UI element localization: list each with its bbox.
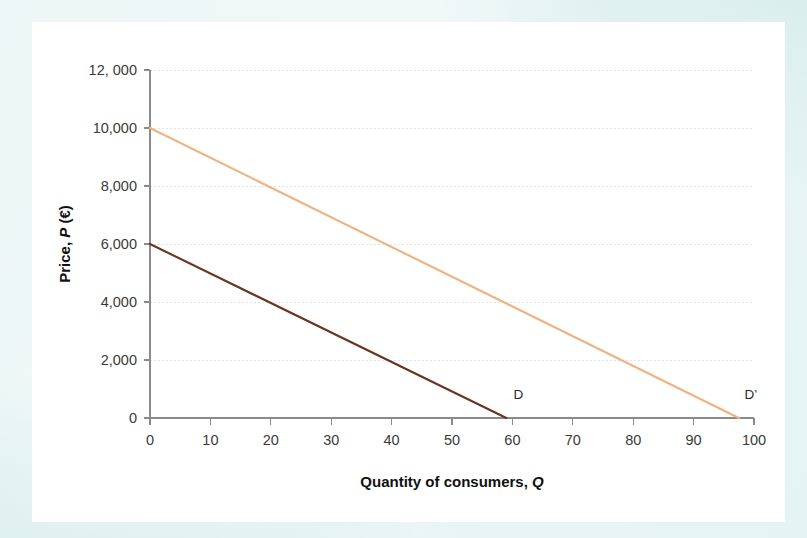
x-tick-label: 70 [565,432,581,448]
x-tick-label: 60 [504,432,520,448]
gridlines [150,70,754,360]
page-root: 02,0004,0006,0008,00010,00012, 000 01020… [0,0,807,538]
y-axis-title: Price, P (€) [56,205,73,283]
x-tick-label: 40 [384,432,400,448]
y-tick-label: 2,000 [101,352,137,368]
chart-card: 02,0004,0006,0008,00010,00012, 000 01020… [32,22,785,522]
x-tick-label: 80 [625,432,641,448]
x-axis-title: Quantity of consumers, Q [360,473,544,490]
y-tick-label: 6,000 [101,236,137,252]
data-series [150,128,739,418]
y-tick-label: 0 [129,410,137,426]
x-tick-label: 50 [444,432,460,448]
x-tick-label: 20 [263,432,279,448]
x-tick-label: 10 [202,432,218,448]
y-tick-label: 4,000 [101,294,137,310]
curve-annotations: DD’ [514,387,758,402]
series-line-D [150,128,739,418]
x-tick-label: 90 [686,432,702,448]
chart-svg: 02,0004,0006,0008,00010,00012, 000 01020… [32,22,785,522]
demand-curve-chart: 02,0004,0006,0008,00010,00012, 000 01020… [32,22,785,522]
x-tick-label: 100 [742,432,766,448]
y-tick-label: 10,000 [93,120,137,136]
series-line-D [150,244,506,418]
y-tick-label: 12, 000 [89,62,137,78]
x-tick-labels: 0102030405060708090100 [146,432,766,448]
curve-label-D: D’ [745,387,758,402]
x-tick-label: 30 [323,432,339,448]
y-tick-labels: 02,0004,0006,0008,00010,00012, 000 [89,62,137,426]
y-tick-label: 8,000 [101,178,137,194]
x-tick-marks [150,418,754,425]
x-tick-label: 0 [146,432,154,448]
curve-label-D: D [514,387,524,402]
